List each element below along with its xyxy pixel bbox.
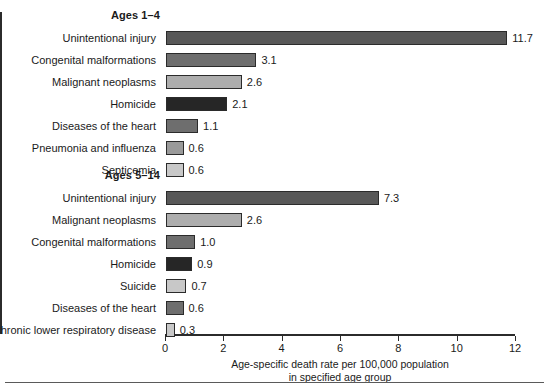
bar-value-label: 2.6 xyxy=(247,213,262,227)
bar-container xyxy=(166,163,184,177)
bar-value-label: 7.3 xyxy=(384,191,399,205)
bar-value-label: 1.1 xyxy=(203,119,218,133)
bar-container xyxy=(166,53,256,67)
bar-category-label: Unintentional injury xyxy=(62,191,156,205)
x-axis-tick xyxy=(457,336,458,341)
bar-value-label: 0.6 xyxy=(189,141,204,155)
bar-row: Malignant neoplasms2.6 xyxy=(0,213,550,227)
x-axis-tick-label: 4 xyxy=(279,342,285,355)
bar-value-label: 0.7 xyxy=(191,279,206,293)
x-axis-tick-label: 12 xyxy=(509,342,521,355)
bar-category-label: Pneumonia and influenza xyxy=(32,141,156,155)
x-axis-tick xyxy=(398,336,399,341)
bar-category-label: Congenital malformations xyxy=(31,53,156,67)
x-axis-tick-label: 6 xyxy=(337,342,343,355)
x-axis-tick-label: 2 xyxy=(220,342,226,355)
bar xyxy=(166,163,184,177)
bar-category-label: Malignant neoplasms xyxy=(52,213,156,227)
x-axis-tick xyxy=(340,336,341,341)
bar-category-label: Suicide xyxy=(120,279,156,293)
bar-row: Homicide0.9 xyxy=(0,257,550,271)
bar-row: Septicemia0.6 xyxy=(0,163,550,177)
bar-category-label: Chronic lower respiratory disease xyxy=(0,323,156,337)
bar xyxy=(166,97,227,111)
bar xyxy=(166,279,186,293)
bar-container xyxy=(166,235,195,249)
bar-container xyxy=(166,119,198,133)
x-axis-tick xyxy=(165,336,166,341)
x-axis-tick-label: 10 xyxy=(451,342,463,355)
bar-category-label: Unintentional injury xyxy=(62,31,156,45)
bar-row: Pneumonia and influenza0.6 xyxy=(0,141,550,155)
bottom-divider-rule xyxy=(5,382,544,383)
bar-row: Congenital malformations1.0 xyxy=(0,235,550,249)
bar-row: Unintentional injury7.3 xyxy=(0,191,550,205)
bar xyxy=(166,213,242,227)
bar-row: Chronic lower respiratory disease0.3 xyxy=(0,323,550,337)
bar-container xyxy=(166,191,379,205)
bar xyxy=(166,191,379,205)
bar-container xyxy=(166,279,186,293)
bar-row: Malignant neoplasms2.6 xyxy=(0,75,550,89)
bar-category-label: Diseases of the heart xyxy=(52,119,156,133)
bar-container xyxy=(166,213,242,227)
bar xyxy=(166,257,192,271)
bar xyxy=(166,235,195,249)
bar-container xyxy=(166,75,242,89)
bar-value-label: 0.3 xyxy=(180,323,195,337)
group-header-ages-1-4: Ages 1–4 xyxy=(111,9,160,21)
bar-container xyxy=(166,301,184,315)
bar-container xyxy=(166,323,175,337)
bar-value-label: 3.1 xyxy=(261,53,276,67)
bar-value-label: 0.6 xyxy=(189,301,204,315)
bar-category-label: Diseases of the heart xyxy=(52,301,156,315)
bar-row: Diseases of the heart1.1 xyxy=(0,119,550,133)
bar xyxy=(166,141,184,155)
bar-row: Suicide0.7 xyxy=(0,279,550,293)
bar-row: Congenital malformations3.1 xyxy=(0,53,550,67)
bar xyxy=(166,75,242,89)
bar xyxy=(166,301,184,315)
chart-figure: Ages 1–4 Ages 5–14 Unintentional injury1… xyxy=(0,0,550,392)
bar-row: Homicide2.1 xyxy=(0,97,550,111)
bar-category-label: Malignant neoplasms xyxy=(52,75,156,89)
x-axis-title-line-1: Age-specific death rate per 100,000 popu… xyxy=(165,358,515,371)
x-axis-tick-label: 0 xyxy=(162,342,168,355)
bar-category-label: Septicemia xyxy=(102,163,156,177)
bar-value-label: 0.9 xyxy=(197,257,212,271)
bar-container xyxy=(166,141,184,155)
bar-container xyxy=(166,257,192,271)
bar-value-label: 2.6 xyxy=(247,75,262,89)
x-axis-tick-label: 8 xyxy=(395,342,401,355)
bar xyxy=(166,31,507,45)
bar-category-label: Congenital malformations xyxy=(31,235,156,249)
bar-value-label: 2.1 xyxy=(232,97,247,111)
bar xyxy=(166,119,198,133)
bar-value-label: 11.7 xyxy=(512,31,533,45)
bar xyxy=(166,53,256,67)
bar-category-label: Homicide xyxy=(110,97,156,111)
bar-container xyxy=(166,97,227,111)
x-axis-title: Age-specific death rate per 100,000 popu… xyxy=(165,358,515,383)
bar-value-label: 1.0 xyxy=(200,235,215,249)
x-axis-tick xyxy=(515,336,516,341)
x-axis-tick xyxy=(282,336,283,341)
bar-value-label: 0.6 xyxy=(189,163,204,177)
bar-row: Unintentional injury11.7 xyxy=(0,31,550,45)
bar xyxy=(166,323,175,337)
bar-row: Diseases of the heart0.6 xyxy=(0,301,550,315)
bar-container xyxy=(166,31,507,45)
bar-category-label: Homicide xyxy=(110,257,156,271)
x-axis-tick xyxy=(223,336,224,341)
